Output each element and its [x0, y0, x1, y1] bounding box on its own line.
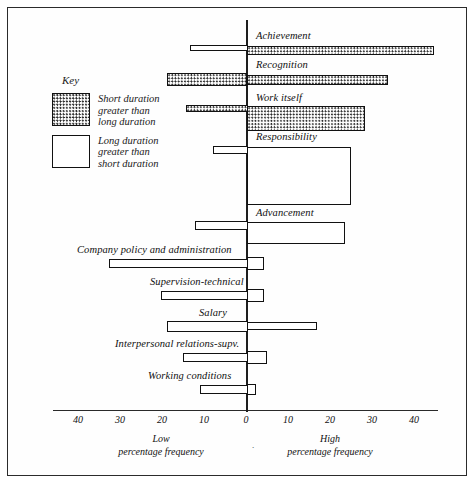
- legend-line: Long duration: [98, 135, 158, 147]
- legend-entry-text: Short duration greater than long duratio…: [98, 93, 160, 128]
- bar-work-itself-low: [186, 105, 248, 112]
- x-tick-plus-40: 40: [409, 414, 419, 425]
- legend-swatch-dotted: [52, 93, 90, 126]
- bar-working-conditions-high: [247, 384, 256, 395]
- bar-advancement-high: [247, 222, 345, 244]
- figure-frame: Key Short duration greater than long dur…: [7, 7, 467, 476]
- legend-swatch-outline: [52, 135, 90, 168]
- legend-entry-text: Long duration greater than short duratio…: [98, 135, 158, 170]
- row-label-achievement: Achievement: [256, 30, 311, 41]
- bar-work-itself-high: [247, 106, 365, 131]
- bar-recognition-low: [167, 73, 247, 86]
- x-tick-minus-10: 10: [199, 414, 209, 425]
- row-label-working-conditions: Working conditions: [148, 370, 231, 381]
- bar-company-policy-high: [247, 257, 264, 270]
- row-label-company-policy: Company policy and administration: [77, 244, 232, 255]
- x-tick-plus-20: 20: [325, 414, 335, 425]
- bar-company-policy-low: [109, 259, 248, 268]
- legend-line: short duration: [98, 158, 158, 170]
- axis-caption-low: Low percentage frequency: [118, 433, 204, 458]
- row-label-interpersonal: Interpersonal relations-supv.: [115, 338, 239, 349]
- axis-caption-low-line2: percentage frequency: [118, 446, 204, 459]
- bar-salary-high: [247, 322, 317, 330]
- bar-interpersonal-high: [247, 351, 267, 364]
- legend-entry-long-duration: Long duration greater than short duratio…: [52, 135, 202, 170]
- bar-salary-low: [167, 321, 248, 332]
- row-label-work-itself: Work itself: [256, 92, 302, 103]
- axis-caption-high: High percentage frequency: [287, 433, 373, 458]
- axis-caption-low-line1: Low: [118, 433, 204, 446]
- row-label-salary: Salary: [199, 307, 227, 318]
- bar-achievement-high: [247, 46, 434, 55]
- row-label-supervision: Supervision-technical: [150, 276, 244, 287]
- bar-advancement-low: [195, 221, 248, 230]
- legend-line: greater than: [98, 105, 160, 117]
- bar-achievement-low: [190, 45, 248, 51]
- legend-line: Short duration: [98, 93, 160, 105]
- x-tick-zero: 0: [244, 414, 249, 425]
- x-tick-minus-30: 30: [115, 414, 125, 425]
- x-tick-plus-30: 30: [367, 414, 377, 425]
- axis-caption-high-line2: percentage frequency: [287, 446, 373, 459]
- row-label-responsibility: Responsibility: [256, 131, 317, 142]
- bar-supervision-low: [161, 291, 248, 300]
- legend-entry-short-duration: Short duration greater than long duratio…: [52, 93, 202, 128]
- x-tick-plus-10: 10: [283, 414, 293, 425]
- zero-tick-mark: [246, 404, 248, 412]
- axis-caption-high-line1: High: [287, 433, 373, 446]
- bar-interpersonal-low: [183, 353, 248, 362]
- bar-working-conditions-low: [200, 385, 248, 394]
- row-label-advancement: Advancement: [256, 207, 314, 218]
- legend-line: long duration: [98, 116, 160, 128]
- x-tick-minus-40: 40: [73, 414, 83, 425]
- bar-responsibility-low: [213, 146, 248, 154]
- legend-line: greater than: [98, 146, 158, 158]
- bar-supervision-high: [247, 289, 264, 302]
- bar-recognition-high: [247, 75, 388, 85]
- chart-plot-area: Key Short duration greater than long dur…: [8, 8, 468, 477]
- bar-responsibility-high: [247, 147, 351, 205]
- row-label-recognition: Recognition: [256, 59, 308, 70]
- x-tick-minus-20: 20: [157, 414, 167, 425]
- center-dot-mark: .: [252, 440, 254, 450]
- legend-key: Key Short duration greater than long dur…: [52, 74, 202, 177]
